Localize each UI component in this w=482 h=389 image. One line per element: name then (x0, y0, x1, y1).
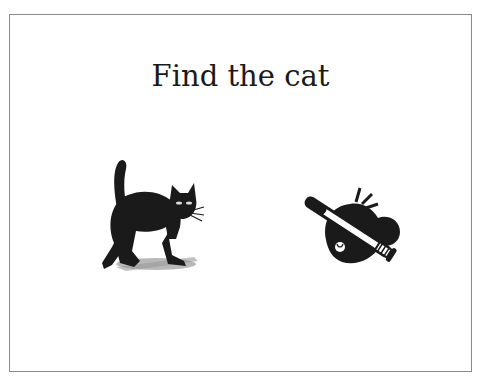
slide-title: Find the cat (10, 59, 471, 93)
cat-icon (76, 143, 216, 283)
slide-frame: Find the cat (9, 14, 472, 372)
cat-image[interactable] (76, 143, 216, 283)
baseball-bat-image[interactable] (292, 180, 417, 280)
baseball-bat-icon (292, 180, 417, 280)
